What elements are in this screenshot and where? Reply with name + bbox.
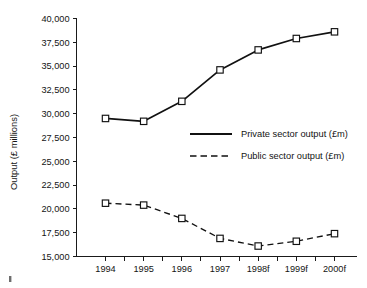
data-point-marker	[140, 202, 146, 208]
legend-label: Public sector output (£m)	[241, 151, 344, 161]
y-tick-label: 25,000	[41, 157, 69, 167]
x-tick-label: 1998f	[247, 264, 270, 274]
y-tick-label: 27,500	[41, 133, 69, 143]
y-tick-label: 17,500	[41, 228, 69, 238]
data-point-marker	[331, 230, 337, 236]
x-tick-label: 1999f	[285, 264, 308, 274]
data-point-marker	[140, 118, 146, 124]
y-tick-label: 22,500	[41, 180, 69, 190]
data-point-marker	[179, 98, 185, 104]
data-point-marker	[293, 35, 299, 41]
data-point-marker	[255, 47, 261, 53]
y-tick-label: 15,000	[41, 252, 69, 262]
data-point-marker	[331, 29, 337, 35]
y-tick-label: 40,000	[41, 14, 69, 24]
y-tick-label: 30,000	[41, 109, 69, 119]
data-point-marker	[102, 115, 108, 121]
x-tick-label: 1996	[172, 264, 192, 274]
chart-canvas: 15,00017,50020,00022,50025,00027,50030,0…	[0, 0, 367, 288]
y-tick-label: 20,000	[41, 204, 69, 214]
data-point-marker	[217, 235, 223, 241]
data-point-marker	[255, 243, 261, 249]
y-tick-label: 37,500	[41, 38, 69, 48]
data-point-marker	[102, 200, 108, 206]
y-tick-label: 35,000	[41, 61, 69, 71]
legend-label: Private sector output (£m)	[241, 129, 348, 139]
scan-artifact-mark	[9, 276, 11, 282]
line-chart: 15,00017,50020,00022,50025,00027,50030,0…	[0, 0, 367, 288]
data-point-marker	[293, 238, 299, 244]
x-tick-label: 1994	[95, 264, 115, 274]
data-point-marker	[217, 67, 223, 73]
x-tick-label: 2000f	[323, 264, 346, 274]
y-axis-title: Output (£ millions)	[8, 114, 19, 190]
x-tick-label: 1995	[133, 264, 153, 274]
data-point-marker	[179, 215, 185, 221]
y-tick-label: 32,500	[41, 85, 69, 95]
x-tick-label: 1997	[210, 264, 230, 274]
